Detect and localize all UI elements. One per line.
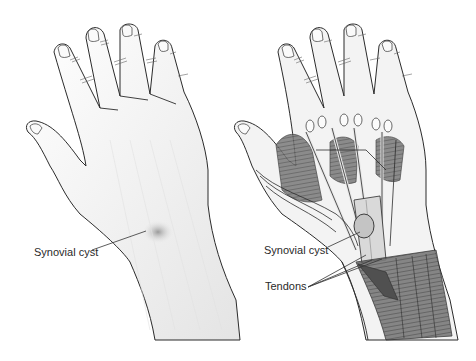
left-hand-outline — [26, 24, 240, 340]
muscle-region — [376, 137, 404, 182]
illustration-stage: Synovial cyst Synovial cyst Tendons — [0, 0, 476, 361]
right-hand — [234, 24, 458, 340]
label-tendons: Tendons — [265, 280, 307, 292]
left-cyst-bulge — [142, 220, 174, 244]
label-synovial-cyst-right: Synovial cyst — [264, 244, 328, 256]
nail-icon — [88, 29, 99, 42]
label-synovial-cyst-left: Synovial cyst — [34, 246, 98, 258]
hand-illustration — [0, 0, 476, 361]
left-hand — [26, 24, 240, 340]
synovial-cyst — [354, 214, 374, 238]
nail-icon — [122, 25, 132, 37]
